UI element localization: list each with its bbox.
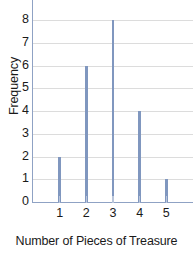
y-axis-tick-label: 1 xyxy=(3,172,29,185)
x-axis-tick-label: 5 xyxy=(155,206,177,220)
histogram-chart: Frequency 012345678 12345 Number of Piec… xyxy=(0,0,193,255)
x-axis-tick-label: 1 xyxy=(49,206,71,220)
plot-area xyxy=(33,0,193,203)
y-axis-tick-label: 4 xyxy=(3,104,29,117)
bar xyxy=(112,20,115,202)
y-axis-tick-label: 8 xyxy=(3,13,29,26)
bar xyxy=(138,111,141,202)
x-axis-tick-mark xyxy=(59,196,60,203)
y-axis-tick-label: 5 xyxy=(3,81,29,94)
x-axis-title: Number of Pieces of Treasure xyxy=(0,234,193,248)
x-axis-tick-label: 4 xyxy=(129,206,151,220)
y-axis-tick-label: 3 xyxy=(3,127,29,140)
bar xyxy=(85,66,88,203)
y-axis-tick-label: 6 xyxy=(3,59,29,72)
y-axis-tick-label: 0 xyxy=(3,195,29,208)
y-axis-tick-label: 7 xyxy=(3,36,29,49)
x-axis-tick-mark xyxy=(166,196,167,203)
x-axis-tick-label: 3 xyxy=(102,206,124,220)
y-axis-tick-label: 2 xyxy=(3,150,29,163)
y-axis-line xyxy=(32,0,33,203)
x-axis-tick-mark xyxy=(86,196,87,203)
x-axis-tick-label: 2 xyxy=(75,206,97,220)
x-axis-tick-mark xyxy=(112,196,113,203)
y-axis-tick-labels: 012345678 xyxy=(0,0,29,203)
x-axis-tick-mark xyxy=(139,196,140,203)
